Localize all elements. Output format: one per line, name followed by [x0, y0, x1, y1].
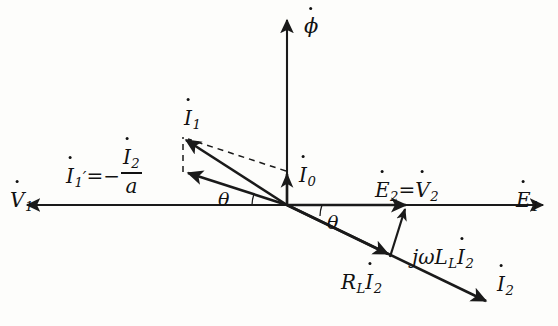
angle-arc-theta-left [252, 194, 254, 205]
label-jwLL-I2: jωLLI2 [412, 247, 474, 270]
label-I1: I1 [184, 108, 201, 131]
vector-I1-prime [188, 173, 287, 205]
angle-arc-theta-right [320, 205, 322, 216]
dashed-I0-to-I1 [188, 139, 286, 171]
label-I2: I2 [497, 274, 514, 297]
label-E1: E1 [516, 190, 540, 213]
label-I1-prime-equation: I1′=−I2a [66, 147, 143, 196]
label-E2-equals-V2: E2=V2 [375, 180, 439, 203]
vector-I1 [186, 140, 287, 205]
label-theta-left: θ [218, 190, 229, 209]
phasor-diagram: ϕ I1 I0 V1 E1 E2=V2 I1′=−I2a θ θ jωLLI2 … [0, 0, 558, 326]
vector-jwLL-I2 [390, 209, 405, 257]
label-I0: I0 [299, 165, 316, 188]
label-theta-right: θ [327, 213, 338, 232]
label-V1: V1 [10, 190, 33, 213]
label-RL-I2: RLI2 [341, 272, 382, 295]
label-phi: ϕ [304, 16, 318, 37]
